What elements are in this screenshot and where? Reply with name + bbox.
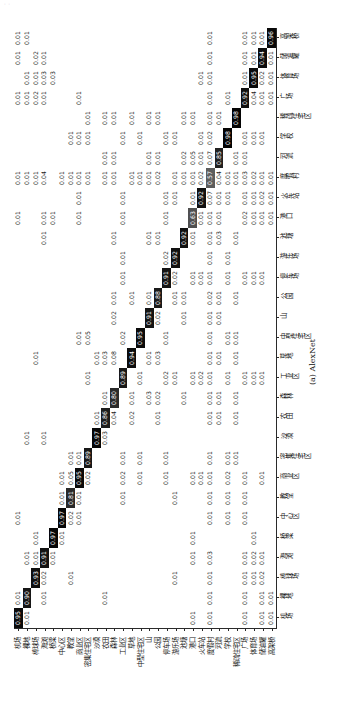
matrix-cell (31, 508, 40, 528)
matrix-cell (258, 488, 267, 508)
matrix-cell: 0.01 (231, 448, 240, 468)
matrix-cell (66, 148, 75, 168)
matrix-cell (188, 288, 197, 308)
matrix-cell (22, 368, 31, 388)
matrix-cell (188, 448, 197, 468)
matrix-cell (48, 108, 57, 128)
matrix-cell (153, 188, 162, 208)
table-row: 0.020.010.940.010.010.01 (127, 28, 136, 628)
matrix-cell (118, 308, 127, 328)
matrix-cell (66, 588, 75, 608)
matrix-cell (118, 508, 127, 528)
matrix-cell: 0.01 (249, 28, 258, 48)
matrix-cell: 0.95 (75, 468, 84, 488)
matrix-cell (48, 348, 57, 368)
matrix-cell (258, 348, 267, 368)
matrix-cell (231, 548, 240, 568)
matrix-cell (109, 568, 118, 588)
matrix-cell: 0.97 (48, 528, 57, 548)
table-row: 0.010.020.810.050.010.010.01 (66, 28, 75, 628)
matrix-cell: 0.01 (75, 448, 84, 468)
matrix-cell (57, 228, 66, 248)
matrix-cell (92, 468, 101, 488)
x-axis-label: 池塘 (280, 233, 292, 245)
matrix-cell: 0.01 (231, 328, 240, 348)
matrix-cell (14, 128, 23, 148)
matrix-cell (179, 328, 188, 348)
matrix-cell: 0.01 (14, 88, 23, 108)
matrix-cell (240, 308, 249, 328)
matrix-cell: 0.01 (223, 328, 232, 348)
table-row: 0.010.010.020.010.010.010.010.010.020.01… (258, 28, 267, 628)
matrix-cell (75, 308, 84, 328)
table-row: 0.040.800.080.020.010.010.010.010.01 (109, 28, 118, 628)
matrix-cell (31, 408, 40, 428)
matrix-cell: 0.01 (83, 368, 92, 388)
matrix-cell: 0.01 (179, 168, 188, 188)
matrix-cell (92, 608, 101, 628)
matrix-cell (266, 528, 275, 548)
matrix-cell: 0.01 (127, 388, 136, 408)
x-axis-tick (276, 97, 279, 98)
matrix-cell (109, 128, 118, 148)
matrix-cell (153, 88, 162, 108)
x-axis-tick (276, 517, 279, 518)
matrix-cell: 0.89 (83, 448, 92, 468)
matrix-cell (118, 148, 127, 168)
x-axis-tick (276, 417, 279, 418)
matrix-cell (197, 248, 206, 268)
matrix-cell (22, 388, 31, 408)
x-axis-tick (276, 577, 279, 578)
matrix-cell (101, 368, 110, 388)
matrix-cell (14, 288, 23, 308)
matrix-cell: 0.02 (258, 188, 267, 208)
matrix-cell (162, 588, 171, 608)
matrix-cell (48, 588, 57, 608)
matrix-cell (92, 28, 101, 48)
table-row: 0.950.010.010.010.010.010.010.01 (14, 28, 23, 628)
matrix-cell (48, 288, 57, 308)
matrix-cell (101, 28, 110, 48)
matrix-cell (144, 528, 153, 548)
matrix-cell (83, 308, 92, 328)
matrix-cell: 0.01 (22, 28, 31, 48)
matrix-cell (223, 528, 232, 548)
matrix-cell: 0.01 (170, 128, 179, 148)
matrix-cell: 0.01 (188, 608, 197, 628)
matrix-cell (40, 388, 49, 408)
matrix-cell: 0.01 (83, 108, 92, 128)
matrix-cell (144, 568, 153, 588)
matrix-cell: 0.98 (223, 128, 232, 148)
matrix-cell (109, 268, 118, 288)
matrix-cell: 0.04 (40, 168, 49, 188)
matrix-cell (179, 488, 188, 508)
matrix-cell (31, 288, 40, 308)
matrix-cell (66, 268, 75, 288)
matrix-cell (197, 448, 206, 468)
matrix-cell: 0.01 (258, 208, 267, 228)
matrix-cell (223, 288, 232, 308)
matrix-cell (57, 68, 66, 88)
matrix-cell: 0.01 (118, 248, 127, 268)
matrix-cell (153, 548, 162, 568)
x-axis-tick (276, 77, 279, 78)
matrix-cell (101, 448, 110, 468)
x-axis-label: 商业区 (280, 473, 298, 485)
matrix-cell: 0.07 (205, 188, 214, 208)
matrix-cell (92, 488, 101, 508)
matrix-cell: 0.01 (40, 228, 49, 248)
matrix-cell (66, 608, 75, 628)
matrix-cell: 0.01 (205, 608, 214, 628)
matrix-cell: 0.95 (249, 68, 258, 88)
matrix-cell (40, 468, 49, 488)
matrix-cell (57, 308, 66, 328)
matrix-cell: 0.01 (223, 268, 232, 288)
matrix-cell: 0.01 (118, 208, 127, 228)
matrix-cell (179, 368, 188, 388)
matrix-cell (75, 588, 84, 608)
matrix-cell (127, 568, 136, 588)
matrix-cell (22, 228, 31, 248)
x-axis-tick (276, 237, 279, 238)
matrix-cell (48, 448, 57, 468)
matrix-cell (214, 28, 223, 48)
